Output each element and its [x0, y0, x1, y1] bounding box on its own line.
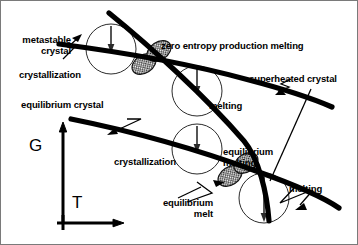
label-equilibrium-melting: equilibrium melting	[223, 146, 289, 168]
label-crystallization-lower: crystallization	[114, 156, 176, 167]
label-crystallization-upper: crystallization	[19, 69, 81, 80]
label-melting-lower: melting	[289, 183, 322, 194]
x-axis-arrowhead	[113, 219, 124, 227]
axis-label-g: G	[29, 137, 42, 154]
label-superheated-crystal: superheated crystal	[249, 73, 337, 84]
diagram-canvas: metastable crystal crystallization zero …	[0, 0, 358, 245]
metastable-crystal-pointer-head	[72, 34, 82, 42]
label-zero-entropy-production-melting: zero entropy production melting	[161, 40, 304, 51]
y-axis-arrowhead	[59, 122, 66, 132]
label-melting-upper: melting	[209, 100, 242, 111]
axes-group	[57, 122, 124, 230]
label-metastable-crystal: metastable crystal	[5, 34, 71, 56]
label-equilibrium-melt: equilibrium melt	[151, 197, 213, 219]
pointers-group	[63, 34, 313, 210]
label-equilibrium-crystal: equilibrium crystal	[21, 99, 104, 110]
axis-label-t: T	[72, 194, 82, 211]
